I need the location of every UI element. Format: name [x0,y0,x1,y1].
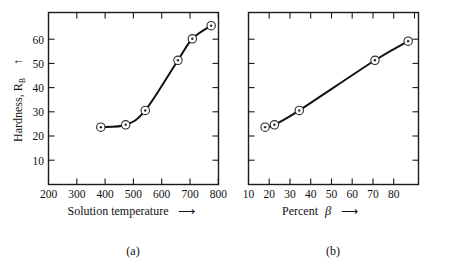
figure-container: 60 50 40 30 20 10 200 300 400 500 600 70… [0,0,461,270]
xtick-label: 200 [40,188,58,200]
panel-a-data-points [97,21,216,131]
panel-a-yticks [49,39,55,160]
xtick-label: 30 [284,188,296,200]
xaxis-title-text: Percent [282,204,319,218]
data-point [207,21,215,29]
panel-a-ytick-labels: 60 50 40 30 20 10 [33,34,45,167]
panel-b-xaxis-title: Percent β ⟶ [282,204,357,218]
panel-a-xticks [49,179,219,185]
ytick-label: 10 [33,155,45,167]
data-point [141,106,149,114]
xaxis-title-text: Solution temperature [68,204,169,218]
panel-a-yaxis-title: Hardness, RB ↑ [11,59,27,142]
panel-b-caption: (b) [326,244,340,258]
data-point [188,35,196,43]
panel-a-top-ticks [77,13,219,19]
panel-b-yticks [249,39,255,160]
panel-a-right-ticks [213,39,219,160]
panel-a: 60 50 40 30 20 10 200 300 400 500 600 70… [11,13,227,259]
panel-a-xtick-labels: 200 300 400 500 600 700 800 [40,188,227,200]
xtick-label: 300 [68,188,86,200]
data-point [404,37,412,45]
panel-b-xtick-labels: 10 20 30 40 50 60 70 80 [243,188,400,200]
xtick-label: 70 [367,188,379,200]
xtick-label: 500 [125,188,143,200]
svg-text:Hardness, RB: Hardness, RB [11,78,27,142]
xtick-label: 60 [346,188,358,200]
xtick-label: 400 [96,188,114,200]
panel-b-plot-frame [249,13,419,185]
ytick-label: 20 [33,130,45,142]
xtick-label: 600 [153,188,171,200]
yaxis-title-subscript: B [18,78,27,83]
panel-a-xaxis-title: Solution temperature ⟶ [68,204,195,218]
xtick-label: 800 [210,188,228,200]
data-point [121,121,129,129]
ytick-label: 50 [33,58,45,70]
data-point [295,106,303,114]
data-point [371,56,379,64]
right-arrow-icon: ⟶ [341,204,358,218]
data-point [270,121,278,129]
panel-b-top-ticks [269,13,414,19]
panel-b-right-ticks [413,39,419,160]
up-arrow-icon: ↑ [11,59,25,65]
ytick-label: 40 [33,82,45,94]
xtick-label: 40 [305,188,317,200]
data-point [261,123,269,131]
xtick-label: 700 [181,188,199,200]
yaxis-title-text: Hardness, R [11,83,25,142]
panel-b-data-curve [265,41,408,127]
xtick-label: 50 [326,188,338,200]
xtick-label: 20 [263,188,275,200]
data-point [97,123,105,131]
panel-a-caption: (a) [126,244,139,258]
data-point [174,56,182,64]
figure-svg: 60 50 40 30 20 10 200 300 400 500 600 70… [0,0,461,270]
panel-b-xticks [249,179,394,185]
ytick-label: 30 [33,106,45,118]
panel-b: 10 20 30 40 50 60 70 80 Percent β ⟶ (b) [243,13,419,259]
right-arrow-icon: ⟶ [178,204,195,218]
xtick-label: 10 [243,188,255,200]
beta-symbol: β [324,204,332,218]
ytick-label: 60 [33,34,45,46]
xtick-label: 80 [388,188,400,200]
